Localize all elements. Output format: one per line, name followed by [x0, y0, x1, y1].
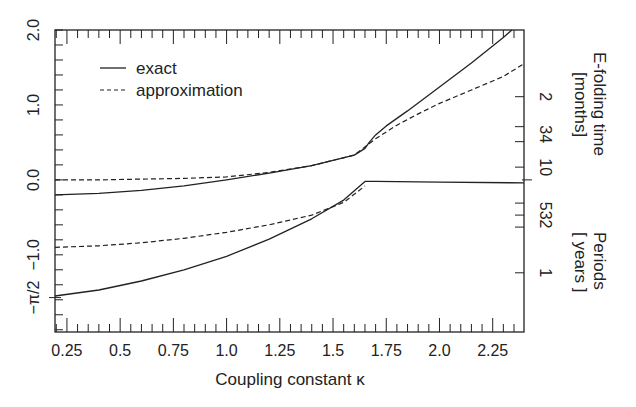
plot-frame — [55, 30, 524, 332]
x-tick-label: 1.5 — [322, 342, 344, 359]
x-tick-label: 2.0 — [428, 342, 450, 359]
series-line-2 — [55, 181, 524, 296]
legend-label-exact: exact — [136, 59, 177, 78]
y-axis-ticks: 2.01.00.0−1.0−π/2 — [25, 19, 63, 330]
x-tick-label: 0.75 — [158, 342, 189, 359]
right-axis-lower-title-1: Periods — [590, 232, 609, 290]
series-lines — [55, 30, 524, 296]
series-line-1 — [55, 64, 524, 180]
right-axis-tick-label: 532 — [537, 202, 554, 229]
x-tick-label: 1.75 — [371, 342, 402, 359]
x-tick-label: 0.25 — [51, 342, 82, 359]
right-axis-ticks: 234105321 — [515, 92, 554, 277]
right-axis-upper-title-2: [months] — [571, 72, 590, 137]
right-axis-tick-label: 2 — [537, 92, 554, 101]
right-axis-tick-label: 1 — [537, 268, 554, 277]
x-axis-ticks: 0.250.50.751.01.251.51.752.02.25 — [51, 30, 514, 359]
x-axis-title: Coupling constant κ — [215, 370, 365, 389]
y-tick-label: −1.0 — [25, 239, 42, 271]
x-tick-label: 0.5 — [109, 342, 131, 359]
y-tick-label: 2.0 — [25, 19, 42, 41]
y-tick-label: −π/2 — [25, 281, 42, 315]
legend-label-approximation: approximation — [136, 81, 243, 100]
right-axis-tick-label: 34 — [537, 125, 554, 143]
x-tick-label: 2.25 — [477, 342, 508, 359]
legend: exact approximation — [100, 59, 243, 100]
right-axis-upper-title-1: E-folding time — [590, 52, 609, 156]
right-axis-tick-label: 10 — [537, 158, 554, 176]
plot-area — [55, 30, 532, 332]
series-line-3 — [55, 186, 365, 247]
x-tick-label: 1.0 — [215, 342, 237, 359]
right-axis-lower-title-2: [ years ] — [571, 232, 590, 292]
y-tick-label: 1.0 — [25, 94, 42, 116]
y-tick-label: 0.0 — [25, 169, 42, 191]
chart: 0.250.50.751.01.251.51.752.02.25 2.01.00… — [0, 0, 636, 407]
x-tick-label: 1.25 — [264, 342, 295, 359]
